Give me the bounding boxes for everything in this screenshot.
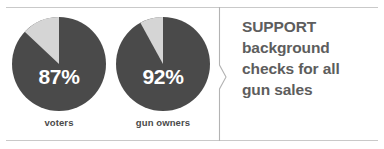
pie-svg-gun-owners <box>116 17 210 111</box>
pie-chart-voters: 87% voters <box>12 17 106 128</box>
infographic-panel: 87% voters 92% gun owners SUPPORT backgr… <box>0 0 384 149</box>
pie-svg-voters <box>12 17 106 111</box>
chevron-right-icon <box>212 7 228 141</box>
statement-line-3: checks for all <box>242 58 382 79</box>
pie-chart-group: 87% voters 92% gun owners <box>0 0 212 149</box>
pie-holder: 92% <box>116 17 210 111</box>
pie-caption-label: voters <box>12 117 106 128</box>
pie-holder: 87% <box>12 17 106 111</box>
statement-line-1: SUPPORT <box>242 16 382 37</box>
pie-caption-label: gun owners <box>116 117 210 128</box>
statement-line-2: background <box>242 37 382 58</box>
statement-line-4: gun sales <box>242 79 382 100</box>
pie-chart-gun-owners: 92% gun owners <box>116 17 210 128</box>
statement-text: SUPPORT background checks for all gun sa… <box>242 16 382 100</box>
section-divider <box>212 7 228 141</box>
